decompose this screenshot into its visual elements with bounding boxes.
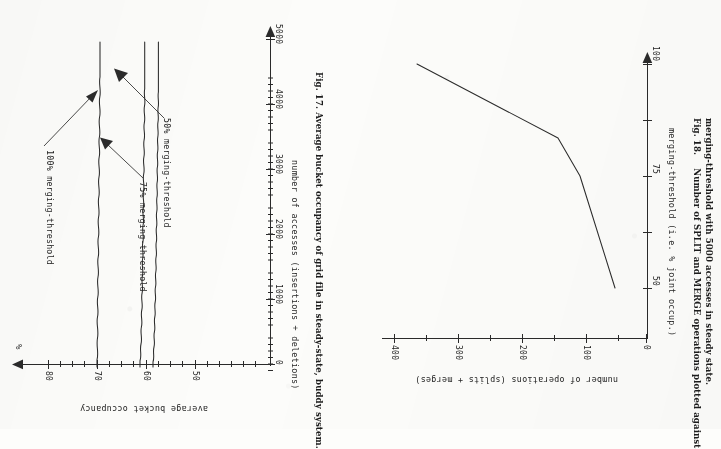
fig18-yticklabel-400: 400: [390, 345, 399, 360]
fig18-xticklabel-100: 100: [651, 46, 660, 61]
fig17-yticklabel-80: 80: [44, 371, 53, 381]
fig17-annotation-100: 100% merging-threshold: [45, 150, 55, 265]
fig17-ylabel: average bucket occupancy: [80, 404, 208, 414]
fig17-xlabel: number of accesses (insertions + deletio…: [290, 160, 300, 390]
fig17-annotation-50-leader: [108, 62, 178, 124]
fig17-yticklabel-60: 60: [142, 371, 151, 381]
fig18-yticklabel-300: 300: [454, 345, 463, 360]
fig17-annotation-75-leader: [95, 130, 155, 190]
fig18-caption-line2: merging-threshold with 5000 accesses in …: [704, 118, 714, 385]
fig17-annotation-75: 75% merging-threshold: [138, 182, 148, 292]
fig17-yticklabel-70: 70: [93, 371, 102, 381]
fig17-yticklabel-50: 50: [191, 371, 200, 381]
fig18-xticklabel-75: 75: [651, 164, 660, 174]
fig18-caption-number: Fig. 18.: [692, 118, 702, 155]
fig18-ylabel: number of operations (splits + merges): [415, 375, 618, 385]
fig18-xlabel: merging-threshold (i.e. % joint occup.): [667, 128, 677, 336]
fig18-xticklabel-50: 50: [651, 276, 660, 286]
fig18-yticklabel-200: 200: [518, 345, 527, 360]
fig17-annotation-50: 50% merging-threshold: [162, 118, 172, 228]
fig18-caption-text-1: Number of SPLIT and MERGE operations plo…: [692, 168, 702, 448]
fig18-yticklabel-100: 100: [582, 345, 591, 360]
fig18-caption-line1: Fig. 18. Number of SPLIT and MERGE opera…: [692, 118, 702, 448]
fig18-plot-curve: [380, 40, 650, 340]
fig17-caption: Fig. 17. Average bucket occupancy of gri…: [314, 72, 324, 449]
fig18-yticklabel-0: 0: [642, 345, 651, 350]
